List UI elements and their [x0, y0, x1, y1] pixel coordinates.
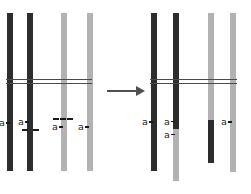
pairing-line	[150, 79, 237, 84]
allele-label-text: a	[78, 122, 84, 132]
unequal-crossover-figure: a a a a	[0, 0, 251, 194]
after-chromatid-1	[151, 13, 157, 171]
after-crossover-group: a a a a	[125, 0, 251, 194]
label-tick	[171, 134, 175, 135]
allele-label: a	[164, 117, 175, 127]
dark-segment	[173, 13, 179, 129]
allele-label-text: a	[52, 122, 58, 132]
label-tick	[171, 121, 175, 122]
allele-label: a	[164, 130, 175, 140]
allele-label: a	[78, 122, 89, 132]
allele-label: a	[0, 118, 10, 128]
allele-label-text: a	[164, 117, 170, 127]
allele-label-text: a	[18, 117, 24, 127]
after-chromatid-4	[230, 13, 236, 172]
allele-label-text: a	[164, 130, 170, 140]
allele-label: a	[52, 122, 63, 132]
light-segment	[208, 13, 214, 120]
label-tick	[6, 122, 10, 123]
dark-segment	[208, 120, 214, 163]
pairing-line	[6, 79, 92, 84]
before-chromatid-3	[61, 13, 67, 171]
before-chromatid-2	[27, 13, 33, 171]
allele-label: a	[142, 117, 153, 127]
after-chromatid-3-deletion	[208, 13, 214, 163]
crossover-cut-mark	[53, 118, 73, 120]
label-tick	[228, 121, 232, 122]
allele-label-text: a	[142, 117, 148, 127]
label-tick	[59, 126, 63, 127]
allele-label-text: a	[221, 117, 227, 127]
label-tick	[85, 126, 89, 127]
before-chromatid-1	[7, 13, 13, 171]
before-crossover-group: a a a a	[0, 0, 125, 194]
allele-label-text: a	[0, 118, 5, 128]
label-tick	[149, 121, 153, 122]
allele-label: a	[221, 117, 232, 127]
allele-label: a	[18, 117, 29, 127]
crossover-cut-mark	[22, 129, 39, 131]
label-tick	[25, 121, 29, 122]
after-chromatid-2-duplication	[173, 13, 179, 181]
before-chromatid-4	[87, 13, 93, 171]
